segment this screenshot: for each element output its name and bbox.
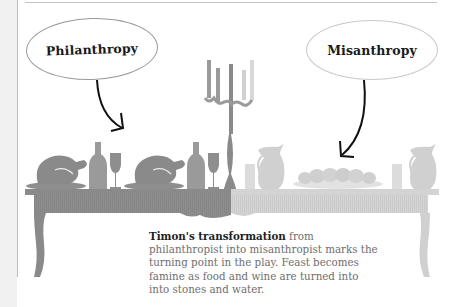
water-jug-icon <box>410 144 437 190</box>
caption: Timon's transformation from philanthropi… <box>149 230 379 296</box>
water-jug-icon <box>258 144 285 190</box>
philanthropy-label: Philanthropy <box>46 40 139 58</box>
wine-bottle-icon <box>187 142 205 190</box>
plate-of-stones-icon <box>293 168 383 189</box>
wine-glass-icon <box>208 153 219 189</box>
arrow-right-icon <box>340 80 365 157</box>
roast-chicken-icon <box>26 156 87 190</box>
caption-bold: Timon's transformation <box>149 230 286 242</box>
misanthropy-label: Misanthropy <box>327 43 417 58</box>
misanthropy-bubble: Misanthropy <box>306 20 438 80</box>
water-glass-icon <box>392 164 402 190</box>
wine-bottle-icon <box>89 142 107 190</box>
arrow-left-icon <box>97 80 123 131</box>
roast-chicken-icon <box>124 156 185 190</box>
water-glass-icon <box>245 164 255 190</box>
wine-glass-icon <box>110 153 121 189</box>
